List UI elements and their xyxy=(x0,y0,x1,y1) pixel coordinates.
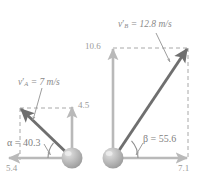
left-vertical-component-label: 4.5 xyxy=(78,101,89,110)
left-vector-label: v′A = 7 m/s xyxy=(18,78,60,88)
right-horizontal-component-label: 7.1 xyxy=(178,164,189,173)
right-vector-subscript: B xyxy=(124,22,128,29)
left-vector-subscript: A xyxy=(24,80,28,87)
ball-a xyxy=(62,148,83,169)
right-angle-label: β = 55.6 xyxy=(143,134,176,144)
left-vector-magnitude: = 7 m/s xyxy=(31,77,60,87)
ball-b-highlight xyxy=(106,151,113,156)
left-angle-arc xyxy=(48,143,54,158)
right-angle-arc xyxy=(132,141,139,158)
vector-diagram-svg xyxy=(0,0,206,183)
left-horizontal-component-label: 5.4 xyxy=(6,164,17,173)
left-velocity-vector xyxy=(21,109,70,156)
right-vector-label: v′B = 12.8 m/s xyxy=(118,20,172,30)
ball-b xyxy=(103,148,124,169)
left-angle-label: α = 40.3 xyxy=(7,138,40,148)
right-vertical-component-label: 10.6 xyxy=(85,42,101,51)
ball-a-highlight xyxy=(65,151,72,156)
right-vector-magnitude: = 12.8 m/s xyxy=(131,19,172,29)
left-label-leader xyxy=(33,88,42,120)
figure-canvas: v′A = 7 m/s v′B = 12.8 m/s α = 40.3 β = … xyxy=(0,0,206,183)
